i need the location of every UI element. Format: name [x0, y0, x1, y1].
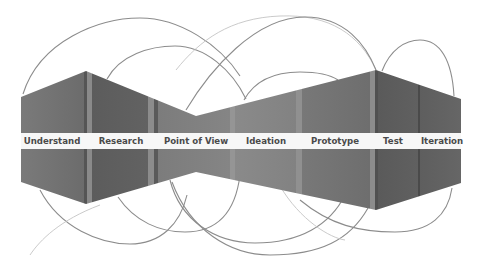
stage-label-ideation: Ideation [246, 136, 286, 146]
stage-label-iteration: Iteration [421, 136, 463, 146]
stage-label-point-of-view: Point of View [164, 136, 228, 146]
stage-label-test: Test [383, 136, 403, 146]
design-thinking-diagram: Understand Research Point of View Ideati… [0, 0, 480, 263]
stage-label-prototype: Prototype [311, 136, 359, 146]
stage-label-understand: Understand [24, 136, 81, 146]
stage-label-research: Research [99, 136, 144, 146]
